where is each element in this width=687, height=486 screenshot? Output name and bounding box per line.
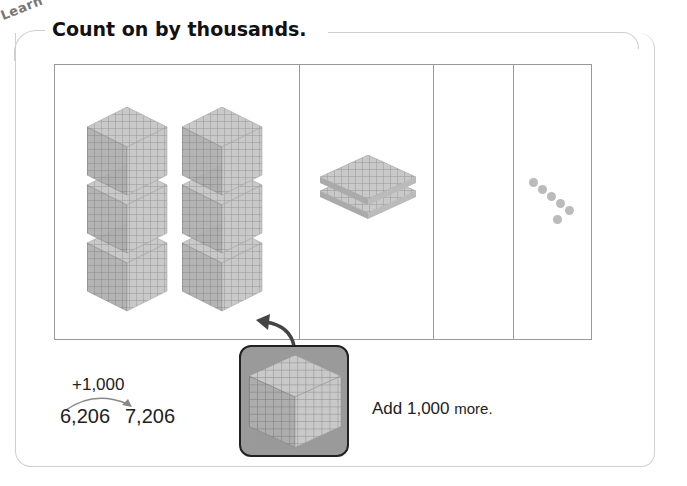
unit-cube <box>565 206 574 215</box>
instruction-suffix: more. <box>454 400 492 417</box>
divider-hundreds <box>299 65 300 339</box>
unit-cube <box>553 215 562 224</box>
start-value: 6,206 <box>60 405 110 428</box>
thousands-blocks <box>87 107 177 322</box>
divider-ones <box>513 65 514 339</box>
unit-cube <box>556 199 565 208</box>
thousands-blocks-2 <box>182 107 272 322</box>
thousand-cube-card[interactable] <box>239 345 349 457</box>
hundreds-blocks <box>320 155 420 230</box>
thousand-cube-icon <box>244 353 349 457</box>
instruction-text: Add 1,000 more. <box>372 399 493 419</box>
end-value: 7,206 <box>125 405 175 428</box>
card-top-border <box>328 32 639 49</box>
unit-cube <box>538 185 547 194</box>
place-value-chart <box>54 64 592 340</box>
section-label: Learn <box>0 0 45 23</box>
unit-cube <box>529 178 538 187</box>
move-arrow-icon <box>250 308 300 348</box>
unit-cube <box>547 192 556 201</box>
divider-tens <box>433 65 434 339</box>
page-title: Count on by thousands. <box>52 18 315 40</box>
instruction-main: Add 1,000 <box>372 399 450 418</box>
